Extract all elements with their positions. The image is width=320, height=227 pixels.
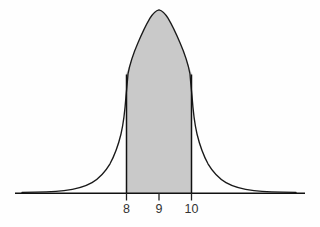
tick-label-9: 9 [156,202,163,216]
tick-label-8: 8 [123,202,130,216]
figure-container: 8 9 10 [0,0,320,227]
shaded-area-region [126,10,192,193]
tick-label-10: 10 [185,202,199,216]
normal-curve-chart: 8 9 10 [0,0,320,227]
